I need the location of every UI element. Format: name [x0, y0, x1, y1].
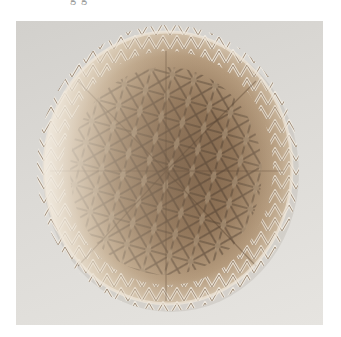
- caption-fragment: g g: [70, 0, 88, 6]
- basket-illustration: [16, 21, 323, 325]
- basket-photo: [16, 21, 323, 325]
